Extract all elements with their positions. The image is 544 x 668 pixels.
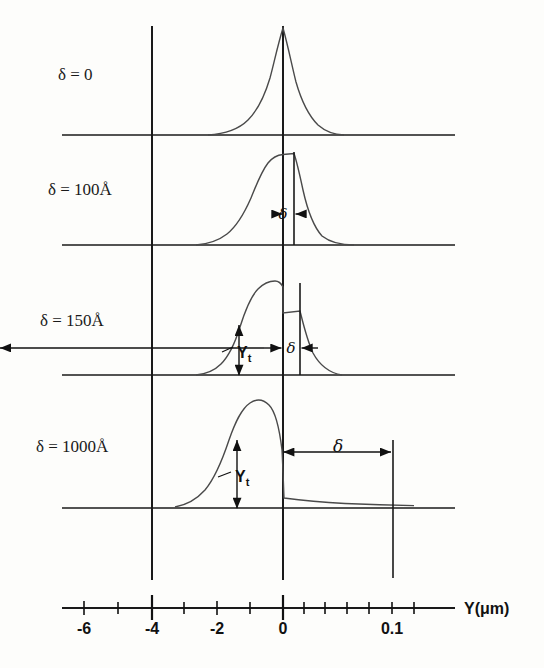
x-axis-label-zero: 0 [279,620,288,638]
panel-label-delta-1000: δ = 1000Å [36,437,108,457]
panel-delta-0 [62,28,455,135]
panel-1-curve [208,28,344,135]
panel-3-curve [196,281,342,375]
figure-container: δ = 0 δ = 100Å δ = 150Å δ = 1000Å δ δ δ … [0,0,544,668]
panel-label-delta-100: δ = 100Å [48,180,112,200]
figure-plot-svg [0,0,544,668]
panel-label-delta-0: δ = 0 [58,65,93,85]
panel-3-yt-main: Y [237,344,248,361]
x-axis [62,595,455,620]
x-axis-label-minus6: -6 [77,620,91,638]
panel-4-delta-annotation: δ [333,436,343,456]
panel-3-yt-annotation: Yt [237,344,251,364]
x-axis-name: Y(μm) [464,600,509,618]
panel-2-curve [196,154,354,246]
panel-3-delta-annotation: δ [286,339,295,357]
panel-4-yt-annotation: Yt [235,468,249,488]
panel-4-yt-leader [218,472,231,477]
x-axis-label-minus2: -2 [210,620,224,638]
panel-4-curve [175,400,414,507]
panel-3-yt-sub: t [248,352,252,364]
panel-4-yt-main: Y [235,468,246,485]
panel-label-delta-150: δ = 150Å [40,311,104,331]
panel-2-delta-annotation: δ [278,205,287,223]
panel-delta-100 [62,152,455,245]
panel-delta-1000 [62,400,455,578]
panel-4-yt-sub: t [246,476,250,488]
x-axis-label-point1: 0.1 [381,620,403,638]
x-axis-label-minus4: -4 [145,620,159,638]
